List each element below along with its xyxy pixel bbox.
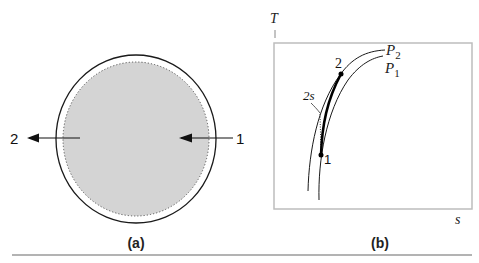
state-label-1: 1 [324, 152, 331, 167]
figure: 2 1 (a) T s 1 2 2s P2 P1 [0, 0, 479, 263]
outlet-arrowhead-icon [27, 134, 39, 143]
ts-diagram-frame [274, 43, 472, 209]
panel-b-caption: (b) [371, 235, 389, 251]
inlet-label: 1 [236, 130, 244, 147]
x-axis-label: s [455, 212, 461, 227]
panel-a-caption: (a) [127, 235, 144, 251]
panel-a: 2 1 (a) [10, 55, 244, 251]
panel-b: T s 1 2 2s P2 P1 (b) [270, 11, 472, 251]
y-axis-label: T [270, 11, 279, 26]
state-label-2: 2 [335, 56, 342, 71]
state-point-2 [339, 72, 344, 77]
state-point-1 [319, 153, 324, 158]
outlet-label: 2 [10, 130, 18, 147]
state-label-2s: 2s [303, 88, 315, 103]
